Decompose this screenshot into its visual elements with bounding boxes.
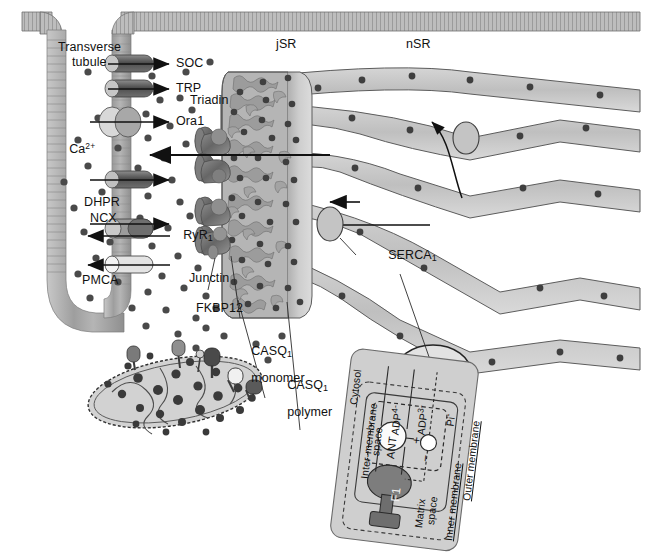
label-casq-polymer: CASQ1 polymer [280,366,332,419]
label-pi: Pi- [430,412,459,434]
label-transverse-tubule-line1: Transverse [58,41,121,54]
label-f1: F1 [389,487,404,503]
casq-polymer-subscript: 1 [323,383,328,393]
label-ant: ANT [384,436,400,460]
calcium-charge: 2+ [85,141,95,151]
label-charge-minus: − [419,454,433,463]
casq-monomer-text: CASQ [251,344,287,358]
adp4-charge: 4- [389,404,400,413]
top-sr-cisterna [121,12,640,31]
label-soc: SOC [176,57,203,70]
label-orai1: Ora1 [176,115,204,128]
serca-subscript: 1 [432,253,437,263]
label-dhpr: DHPR [84,196,120,209]
pi-text: Pi [444,416,457,427]
adp3-text: ADP [415,412,430,435]
casq-polymer-text: CASQ [287,378,323,392]
casq-polymer-line2: polymer [287,405,332,419]
label-charge-plus: + [410,436,424,445]
label-pmca: PMCA [82,274,119,287]
mitochondrion-left [83,340,268,440]
label-jsr: jSR [276,38,296,51]
casq-monomer-subscript: 1 [287,349,292,359]
label-triadin: Triadin [190,94,228,107]
figure-canvas: jSR nSR Transverse tubule SOC TRP Triadi… [0,0,646,555]
label-ryr: RyR1 [176,216,213,243]
label-ncx: NCX [90,212,117,225]
adp3-charge: 3- [415,404,426,413]
ryr-subscript: 1 [208,233,213,243]
label-transverse-tubule-line2: tubule [72,56,107,69]
calcium-text: Ca [69,142,85,156]
ryr-text: RyR [183,228,208,242]
label-serca: SERCA1 [381,236,437,263]
label-calcium: Ca2+ [62,130,95,157]
serca-text: SERCA [388,248,432,262]
label-junctin: Junctin [189,272,229,285]
label-nsr: nSR [406,38,431,51]
label-fkbp12: FKBP12 [196,302,243,315]
label-adp3: ADP3- [401,403,432,441]
